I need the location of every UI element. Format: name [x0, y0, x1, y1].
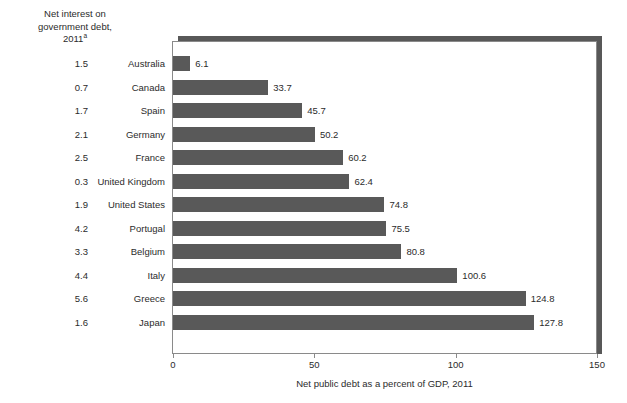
net-interest-value: 1.5	[0, 58, 88, 69]
country-label: United States	[88, 199, 165, 210]
net-interest-value: 1.7	[0, 105, 88, 116]
table-row: 3.3Belgium	[0, 244, 168, 268]
table-row: 1.7Spain	[0, 103, 168, 127]
table-row: 5.6Greece	[0, 291, 168, 315]
table-row: 2.1Germany	[0, 127, 168, 151]
country-label: United Kingdom	[88, 176, 165, 187]
country-label: Portugal	[88, 223, 165, 234]
bar	[173, 56, 190, 71]
bar-row: 80.8	[173, 244, 597, 268]
x-axis-tick-mark	[314, 354, 315, 358]
table-row: 4.2Portugal	[0, 221, 168, 245]
bar-row: 75.5	[173, 221, 597, 245]
bar-value-label: 124.8	[531, 293, 555, 304]
bar-value-label: 45.7	[307, 105, 326, 116]
bar	[173, 80, 268, 95]
bar-value-label: 127.8	[539, 317, 563, 328]
bar	[173, 221, 386, 236]
x-axis-title: Net public debt as a percent of GDP, 201…	[172, 378, 597, 389]
bar-value-label: 62.4	[354, 176, 373, 187]
bar	[173, 197, 384, 212]
row-label-column: 1.5Australia0.7Canada1.7Spain2.1Germany2…	[0, 56, 168, 339]
country-label: Spain	[88, 105, 165, 116]
country-label: Canada	[88, 82, 165, 93]
bar	[173, 127, 315, 142]
country-label: Greece	[88, 293, 165, 304]
table-row: 4.4Italy	[0, 268, 168, 292]
table-row: 0.3United Kingdom	[0, 174, 168, 198]
country-label: Italy	[88, 270, 165, 281]
country-label: Japan	[88, 317, 165, 328]
bar-value-label: 75.5	[391, 223, 410, 234]
bar-row: 127.8	[173, 315, 597, 339]
country-label: Australia	[88, 58, 165, 69]
left-column-header: Net interest on government debt, 2011a	[14, 8, 136, 46]
x-axis-tick-label: 100	[436, 359, 476, 370]
x-axis-tick-mark	[597, 354, 598, 358]
bar-row: 62.4	[173, 174, 597, 198]
bar-row: 124.8	[173, 291, 597, 315]
net-interest-value: 3.3	[0, 246, 88, 257]
bar	[173, 291, 526, 306]
bar-row: 74.8	[173, 197, 597, 221]
net-interest-value: 0.3	[0, 176, 88, 187]
x-axis-tick-label: 150	[577, 359, 617, 370]
bar-value-label: 74.8	[389, 199, 408, 210]
bar-value-label: 33.7	[273, 82, 292, 93]
net-interest-value: 2.5	[0, 152, 88, 163]
country-label: France	[88, 152, 165, 163]
net-interest-value: 2.1	[0, 129, 88, 140]
bar	[173, 150, 343, 165]
plot-shadow-top	[178, 36, 602, 41]
table-row: 0.7Canada	[0, 80, 168, 104]
table-row: 2.5France	[0, 150, 168, 174]
net-interest-value: 5.6	[0, 293, 88, 304]
bar-value-label: 6.1	[195, 58, 208, 69]
country-label: Germany	[88, 129, 165, 140]
bar-row: 45.7	[173, 103, 597, 127]
table-row: 1.9United States	[0, 197, 168, 221]
bar-row: 60.2	[173, 150, 597, 174]
net-interest-value: 1.9	[0, 199, 88, 210]
plot-shadow-right	[597, 36, 602, 354]
bar-row: 6.1	[173, 56, 597, 80]
bar-row: 100.6	[173, 268, 597, 292]
left-header-line2: government debt,	[38, 21, 112, 32]
bar-row: 50.2	[173, 127, 597, 151]
bar	[173, 103, 302, 118]
x-axis-tick-label: 0	[153, 359, 193, 370]
net-interest-value: 1.6	[0, 317, 88, 328]
bar-value-label: 50.2	[320, 129, 339, 140]
bar-series: 6.133.745.750.260.262.474.875.580.8100.6…	[173, 56, 597, 339]
net-interest-value: 4.4	[0, 270, 88, 281]
left-header-line3: 2011	[63, 33, 83, 44]
x-axis-tick-mark	[173, 354, 174, 358]
table-row: 1.6Japan	[0, 315, 168, 339]
bar-value-label: 100.6	[462, 270, 486, 281]
net-interest-value: 4.2	[0, 223, 88, 234]
bar	[173, 315, 534, 330]
bar-value-label: 80.8	[406, 246, 425, 257]
table-row: 1.5Australia	[0, 56, 168, 80]
bar	[173, 268, 457, 283]
net-interest-value: 0.7	[0, 82, 88, 93]
plot-border-top	[172, 41, 598, 42]
bar-row: 33.7	[173, 80, 597, 104]
x-axis-tick-label: 50	[294, 359, 334, 370]
bar-value-label: 60.2	[348, 152, 367, 163]
x-axis-tick-mark	[456, 354, 457, 358]
footnote-marker: a	[83, 32, 87, 39]
bar	[173, 174, 349, 189]
bar	[173, 244, 401, 259]
country-label: Belgium	[88, 246, 165, 257]
left-header-line1: Net interest on	[44, 8, 106, 19]
